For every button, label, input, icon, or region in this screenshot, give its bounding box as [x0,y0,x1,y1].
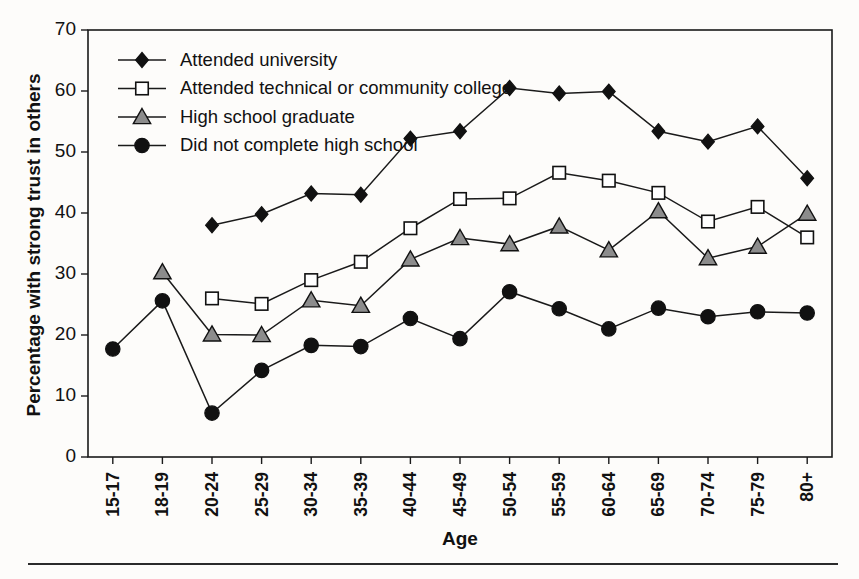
x-tick-label: 40-44 [400,472,420,517]
legend-marker-icon [135,138,149,152]
legend-label: High school graduate [180,106,355,127]
data-point [502,284,516,298]
data-point [403,311,417,325]
footer-divider [28,563,838,565]
x-tick-label: 35-39 [351,472,371,517]
data-point [750,305,764,319]
data-point [652,187,665,200]
data-point [701,310,715,324]
data-point [503,192,515,205]
data-point [602,322,616,336]
x-tick-label: 18-19 [152,472,172,517]
y-tick-label: 70 [55,18,76,39]
chart-figure: Percentage with strong trust in others A… [0,0,859,579]
data-point [552,302,566,316]
data-point [106,342,120,356]
data-point [751,201,764,214]
data-point [206,292,219,305]
x-tick-label: 65-69 [648,472,668,517]
y-tick-label: 60 [55,79,76,100]
line-chart: Percentage with strong trust in others A… [0,0,859,579]
legend-label: Attended technical or community college [180,77,512,98]
legend-label: Attended university [180,49,338,70]
data-point [354,339,368,353]
y-tick-label: 40 [55,201,76,222]
y-axis-title: Percentage with strong trust in others [23,73,44,416]
data-point [254,363,268,377]
y-tick-label: 50 [55,140,76,161]
x-tick-label: 75-79 [748,472,768,517]
data-point [205,406,219,420]
legend-label: Did not complete high school [180,134,418,155]
y-tick-label: 30 [55,262,76,283]
data-point [651,301,665,315]
data-point [305,274,318,287]
y-tick-label: 20 [55,323,76,344]
data-point [453,331,467,345]
x-tick-label: 15-17 [103,472,123,517]
x-tick-label: 55-59 [549,472,569,517]
data-point [801,231,814,244]
x-tick-label: 25-29 [252,472,272,517]
data-point [304,338,318,352]
data-point [255,298,268,311]
x-tick-label: 45-49 [450,472,470,517]
y-tick-label: 10 [55,384,76,405]
x-tick-label: 80+ [797,472,817,502]
data-point [404,222,417,235]
x-tick-label: 30-34 [301,472,321,517]
x-tick-label: 50-54 [500,472,520,517]
data-point [553,166,566,179]
data-point [702,215,715,228]
y-tick-label: 0 [65,445,76,466]
data-point [800,306,814,320]
x-tick-label: 60-64 [599,472,619,517]
x-tick-label: 70-74 [698,472,718,517]
x-tick-label: 20-24 [202,472,222,517]
data-point [155,294,169,308]
data-point [603,174,616,187]
data-point [355,256,368,268]
x-axis-title: Age [442,528,478,549]
legend-marker-icon [136,82,149,95]
data-point [454,193,467,206]
